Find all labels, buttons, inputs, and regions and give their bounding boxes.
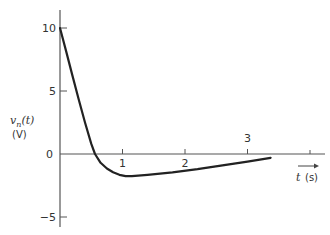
y-tick-label: 0 bbox=[46, 148, 53, 161]
y-axis-label-unit: (V) bbox=[12, 129, 27, 140]
y-tick-label: −5 bbox=[40, 211, 56, 224]
y-tick-label: 10 bbox=[42, 22, 56, 35]
y-tick-label: 5 bbox=[49, 85, 56, 98]
x-tick-label: 3 bbox=[244, 132, 251, 145]
y-axis-label: vn(t) bbox=[10, 114, 34, 129]
y-label-rest: (t) bbox=[21, 114, 34, 127]
x-axis-label-var: t bbox=[296, 171, 301, 184]
t-arrowhead-icon bbox=[314, 164, 319, 169]
y-ticks: 1050−5 bbox=[40, 22, 67, 224]
x-axis-label-unit: (s) bbox=[305, 172, 318, 183]
chart: 1050−5 123 t (s) vn(t) (V) bbox=[0, 0, 330, 235]
x-tick-label: 2 bbox=[182, 157, 189, 170]
x-tick-label: 1 bbox=[119, 157, 126, 170]
